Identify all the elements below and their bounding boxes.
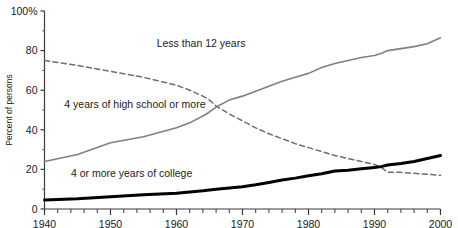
series-label-2: 4 or more years of college xyxy=(71,167,193,179)
y-axis-tick-label: 40 xyxy=(26,124,38,136)
y-axis-tick-label: 100% xyxy=(11,5,38,17)
x-axis-tick-label: 1940 xyxy=(33,218,57,228)
x-axis-tick-label: 1970 xyxy=(231,218,255,228)
y-axis-tick-label: 20 xyxy=(26,163,38,175)
y-axis-title: Percent of persons xyxy=(4,74,14,145)
plot-background xyxy=(0,0,458,228)
x-axis-tick-label: 2000 xyxy=(429,218,453,228)
education-attainment-line-chart: 020406080100% 19401950196019701980199020… xyxy=(0,0,458,228)
x-axis-tick-label: 1950 xyxy=(99,218,123,228)
x-axis-tick-label: 1960 xyxy=(165,218,189,228)
x-axis-tick-label: 1990 xyxy=(363,218,387,228)
y-axis-tick-label: 0 xyxy=(32,203,38,215)
y-axis-tick-label: 80 xyxy=(26,44,38,56)
y-axis-tick-label: 60 xyxy=(26,84,38,96)
y-axis-title-text: Percent of persons xyxy=(4,74,14,145)
chart-container: 020406080100% 19401950196019701980199020… xyxy=(0,0,458,228)
x-axis-tick-label: 1980 xyxy=(297,218,321,228)
series-label-1: 4 years of high school or more xyxy=(64,98,205,110)
series-label-0: Less than 12 years xyxy=(157,37,246,49)
